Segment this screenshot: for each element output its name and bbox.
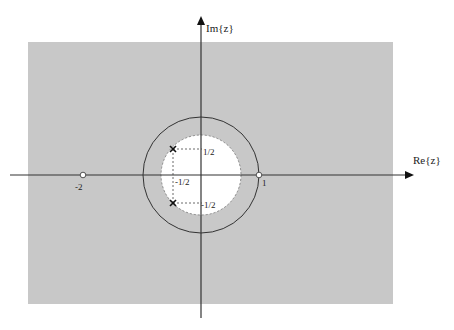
zero-marker-neg2	[80, 172, 86, 178]
pole-upper-im-label: 1/2	[203, 147, 215, 157]
pole-lower-im-label: -1/2	[201, 200, 216, 210]
imag-axis-arrow-icon	[197, 16, 205, 25]
zero-label-1: 1	[262, 178, 267, 188]
real-axis-label: Re{z}	[413, 154, 441, 166]
pole-zero-plot: Im{z} Re{z} 1/2 -1/2 -1/2 -2 1	[0, 0, 454, 330]
pole-re-label: -1/2	[175, 177, 190, 187]
zero-marker-1	[256, 172, 262, 178]
real-axis-arrow-icon	[405, 171, 414, 179]
zero-label-neg2: -2	[75, 182, 83, 192]
imag-axis-label: Im{z}	[206, 22, 234, 34]
